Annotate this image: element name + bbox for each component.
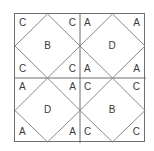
corner-label-bottom-right: A: [133, 64, 140, 74]
corner-label-top-right: A: [69, 82, 76, 92]
corner-label-top-left: C: [84, 82, 91, 92]
corner-label-top-left: C: [19, 18, 26, 28]
corner-label-top-right: C: [69, 18, 76, 28]
quadrant-top-right: A A A A D: [80, 14, 144, 78]
corner-label-top-right: A: [133, 18, 140, 28]
center-label: B: [109, 105, 116, 115]
corner-label-bottom-right: C: [69, 64, 76, 74]
corner-label-bottom-left: A: [84, 64, 91, 74]
corner-label-bottom-left: C: [84, 127, 91, 137]
corner-label-bottom-right: C: [133, 127, 140, 137]
center-label: B: [44, 41, 51, 51]
corner-label-top-right: C: [133, 82, 140, 92]
quadrant-top-left: C C C C B: [15, 14, 80, 78]
center-label: D: [108, 41, 115, 51]
corner-label-bottom-left: C: [19, 64, 26, 74]
quadrant-bottom-left: A A A A D: [15, 78, 80, 141]
quadrant-bottom-right: C C C C B: [80, 78, 144, 141]
corner-label-bottom-left: A: [19, 127, 26, 137]
corner-label-top-left: A: [84, 18, 91, 28]
figure-root: C C C C B A A A A D A A A A D C C C C: [0, 0, 154, 151]
center-label: D: [44, 105, 51, 115]
corner-label-bottom-right: A: [69, 127, 76, 137]
grid-frame: C C C C B A A A A D A A A A D C C C C: [14, 13, 145, 142]
corner-label-top-left: A: [19, 82, 26, 92]
